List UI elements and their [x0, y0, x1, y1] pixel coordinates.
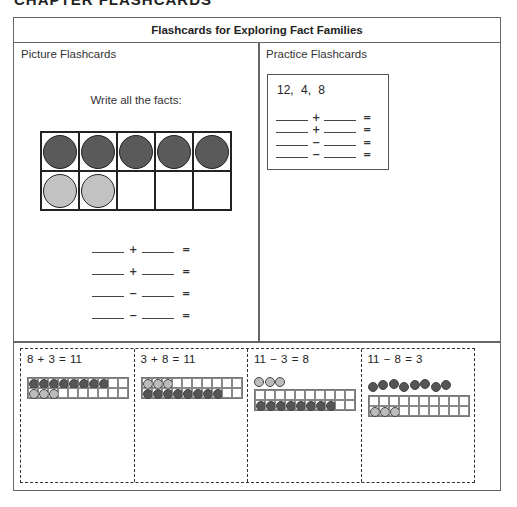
fact-equation: 3 + 8 = 11 [141, 353, 196, 365]
ten-frame-cell [28, 378, 38, 388]
ten-frame-cell [399, 406, 409, 416]
light-counter-icon [275, 377, 285, 387]
fact-cards-strip: 8 + 3 = 113 + 8 = 1111 − 3 = 811 − 8 = 3 [20, 348, 475, 483]
operator-sign: − [312, 137, 320, 148]
ten-frame-cell [192, 378, 202, 388]
ten-frame-cell [449, 406, 459, 416]
ten-frame-cell [429, 406, 439, 416]
ten-frame-cell [79, 132, 117, 171]
equals-sign: = [363, 124, 371, 135]
double-ten-frame [254, 389, 356, 411]
operator-sign: − [129, 310, 137, 321]
ten-frame-cell [98, 378, 108, 388]
ten-frame-cell [275, 390, 285, 400]
dark-counter-icon [410, 380, 420, 390]
ten-frame-cell [118, 388, 128, 398]
answer-blank[interactable] [92, 289, 124, 297]
answer-blank[interactable] [92, 245, 124, 253]
fact-equation: 11 − 3 = 8 [254, 353, 309, 365]
answer-blank[interactable] [276, 114, 308, 121]
dark-counter-icon [368, 382, 378, 392]
answer-blank[interactable] [142, 289, 174, 297]
ten-frame-cell [459, 396, 469, 406]
ten-frame-cell [335, 390, 345, 400]
write-facts-prompt: Write all the facts: [14, 94, 258, 106]
double-ten-frame [368, 395, 470, 417]
equals-sign: = [363, 112, 371, 123]
answer-blank[interactable] [276, 139, 308, 146]
loose-counters [254, 377, 286, 387]
ten-frame-cell [162, 388, 172, 398]
answer-blank[interactable] [92, 267, 124, 275]
answer-blank[interactable] [92, 311, 124, 319]
dark-counter-icon [389, 379, 399, 389]
ten-frame-cell [88, 388, 98, 398]
answer-blank[interactable] [276, 151, 308, 158]
practice-equation-row: −= [276, 136, 371, 149]
ten-frame-cell [285, 390, 295, 400]
equals-sign: = [182, 266, 190, 277]
answer-blank[interactable] [142, 245, 174, 253]
ten-frame-cell [379, 406, 389, 416]
fact-equation: 8 + 3 = 11 [27, 353, 82, 365]
ten-frame-cell [419, 396, 429, 406]
ten-frame-cell [439, 406, 449, 416]
answer-blank[interactable] [324, 151, 356, 158]
operator-sign: − [312, 149, 320, 160]
ten-frame-cell [68, 388, 78, 398]
practice-equation-row: += [276, 111, 371, 124]
dark-counter-icon [43, 135, 77, 169]
operator-sign: + [312, 124, 320, 135]
ten-frame-cell [335, 400, 345, 410]
ten-frame-cell [162, 378, 172, 388]
ten-frame-cell [255, 390, 265, 400]
ten-frame-cell [98, 388, 108, 398]
ten-frame-cell [152, 378, 162, 388]
answer-blank[interactable] [142, 267, 174, 275]
ten-frame-cell [379, 396, 389, 406]
answer-blank[interactable] [324, 126, 356, 133]
picture-equation-blanks: +=+=−=−= [92, 238, 190, 326]
ten-frame-cell [232, 388, 242, 398]
ten-frame-cell [285, 400, 295, 410]
ten-frame-cell [68, 378, 78, 388]
ten-frame-cell [232, 378, 242, 388]
ten-frame-cell [409, 396, 419, 406]
ten-frame-cell [295, 400, 305, 410]
ten-frame-cell [222, 388, 232, 398]
ten-frame-cell [369, 406, 379, 416]
column-divider [258, 43, 260, 342]
equals-sign: = [363, 149, 371, 160]
ten-frame-cell [459, 406, 469, 416]
fact-card: 8 + 3 = 11 [21, 349, 135, 482]
ten-frame-cell [28, 388, 38, 398]
ten-frame-cell [193, 171, 231, 210]
ten-frame-cell [142, 378, 152, 388]
dark-counter-icon [119, 135, 153, 169]
fact-equation: 11 − 8 = 3 [368, 353, 423, 365]
practice-flashcard: 12, 4, 8 +=+=−=−= [267, 74, 389, 170]
dark-counter-icon [420, 379, 430, 389]
operator-sign: + [129, 266, 137, 277]
answer-blank[interactable] [324, 139, 356, 146]
practice-flashcards-label: Practice Flashcards [266, 48, 367, 60]
answer-blank[interactable] [142, 311, 174, 319]
ten-frame-cell [38, 378, 48, 388]
dark-counter-icon [431, 382, 441, 392]
ten-frame-cell [255, 400, 265, 410]
ten-frame-cell [315, 400, 325, 410]
answer-blank[interactable] [276, 126, 308, 133]
ten-frame-cell [315, 390, 325, 400]
light-counter-icon [265, 377, 275, 387]
ten-frame-cell [212, 388, 222, 398]
ten-frame-cell [172, 378, 182, 388]
ten-frame-cell [325, 400, 335, 410]
ten-frame-cell [265, 390, 275, 400]
fact-card: 11 − 3 = 8 [248, 349, 362, 482]
ten-frame-cell [48, 378, 58, 388]
ten-frame-cell [79, 171, 117, 210]
ten-frame [40, 131, 232, 211]
ten-frame-cell [48, 388, 58, 398]
ten-frame-cell [41, 171, 79, 210]
answer-blank[interactable] [324, 114, 356, 121]
